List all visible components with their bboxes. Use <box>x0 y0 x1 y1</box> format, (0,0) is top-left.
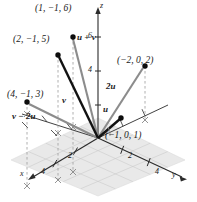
z-tick-6: 6 <box>88 32 92 40</box>
vector-label-2u: 2u <box>106 82 116 91</box>
point-dot-v <box>55 52 60 57</box>
vector-label-u-plus-v: u + v <box>77 33 96 42</box>
y-tick-2: 2 <box>128 152 132 160</box>
point-label-u: (−1, 0, 1) <box>105 131 142 141</box>
vector-label-v: v <box>62 96 66 105</box>
x-tick-2: 2 <box>68 152 72 160</box>
vector-label-u: u <box>103 105 108 114</box>
point-label-v-minus-2u: (4, −1, 3) <box>7 90 44 100</box>
point-label-2u: (−2, 0, 2) <box>117 56 154 66</box>
vector-label-v-minus-2u: v − 2u <box>12 112 35 121</box>
point-label-u-plus-v: (1, −1, 6) <box>35 4 72 14</box>
z-tick-4: 4 <box>88 66 92 74</box>
point-dot-u <box>118 115 123 120</box>
point-dot-u-plus-v <box>70 34 75 39</box>
vector-diagram <box>0 0 197 202</box>
point-dot-v-minus-2u <box>24 99 29 104</box>
y-axis-label: y <box>172 171 176 179</box>
z-axis-label: z <box>100 2 103 10</box>
x-tick-4: 4 <box>41 168 45 176</box>
point-label-v: (2, −1, 5) <box>13 35 50 45</box>
x-axis-label: x <box>20 170 24 178</box>
y-tick-4: 4 <box>155 168 159 176</box>
